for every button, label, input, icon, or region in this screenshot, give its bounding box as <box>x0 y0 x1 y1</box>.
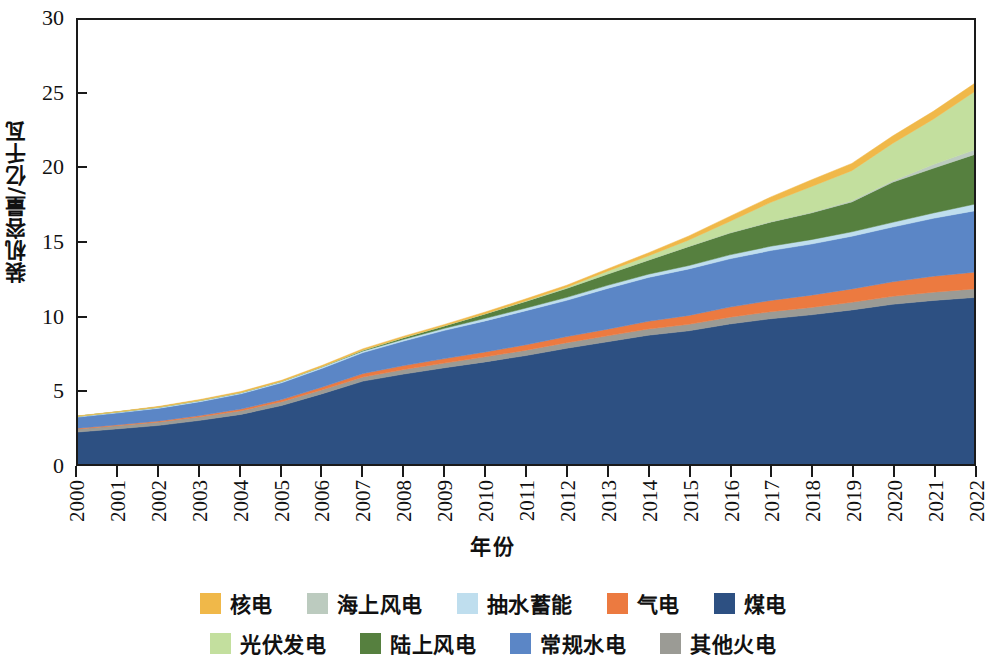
y-tick-mark <box>76 92 87 94</box>
x-tick-mark <box>648 466 650 477</box>
x-axis-title: 年份 <box>0 530 986 560</box>
x-tick-mark <box>852 466 854 477</box>
x-tick-label: 2002 <box>147 480 172 522</box>
x-tick-label: 2005 <box>270 480 295 522</box>
plot-area <box>76 18 976 466</box>
legend-item-核电[interactable]: 核电 <box>200 588 273 618</box>
legend-label: 光伏发电 <box>240 628 326 658</box>
y-tick-mark <box>76 390 87 392</box>
legend-label: 核电 <box>230 588 273 618</box>
y-tick-label: 10 <box>20 304 64 330</box>
x-tick-mark <box>811 466 813 477</box>
legend-row-2: 光伏发电陆上风电常规水电其他火电 <box>0 626 986 660</box>
x-tick-mark <box>689 466 691 477</box>
x-tick-label: 2021 <box>924 480 949 522</box>
x-tick-mark <box>239 466 241 477</box>
x-tick-mark <box>607 466 609 477</box>
y-axis-tick-labels: 051015202530 <box>12 0 64 669</box>
x-tick-label: 2001 <box>106 480 131 522</box>
x-tick-label: 2004 <box>229 480 254 522</box>
x-tick-label: 2008 <box>392 480 417 522</box>
x-tick-mark <box>975 466 977 477</box>
legend-item-煤电[interactable]: 煤电 <box>714 588 787 618</box>
x-tick-label: 2009 <box>433 480 458 522</box>
y-tick-label: 15 <box>20 229 64 255</box>
legend-swatch-icon <box>210 633 231 654</box>
x-tick-mark <box>525 466 527 477</box>
x-tick-label: 2022 <box>965 480 986 522</box>
chart-legend: 核电海上风电抽水蓄能气电煤电 光伏发电陆上风电常规水电其他火电 <box>0 586 986 666</box>
legend-swatch-icon <box>200 593 221 614</box>
legend-item-海上风电[interactable]: 海上风电 <box>307 588 423 618</box>
legend-label: 陆上风电 <box>390 628 476 658</box>
x-tick-label: 2020 <box>883 480 908 522</box>
y-tick-label: 25 <box>20 80 64 106</box>
x-tick-mark <box>934 466 936 477</box>
x-tick-label: 2018 <box>801 480 826 522</box>
legend-label: 气电 <box>637 588 680 618</box>
x-tick-mark <box>157 466 159 477</box>
x-tick-label: 2000 <box>65 480 90 522</box>
legend-swatch-icon <box>510 633 531 654</box>
legend-swatch-icon <box>660 633 681 654</box>
legend-label: 海上风电 <box>337 588 423 618</box>
x-tick-label: 2012 <box>556 480 581 522</box>
x-tick-label: 2003 <box>188 480 213 522</box>
x-tick-mark <box>484 466 486 477</box>
x-tick-mark <box>893 466 895 477</box>
legend-swatch-icon <box>457 593 478 614</box>
x-tick-mark <box>320 466 322 477</box>
x-tick-label: 2006 <box>310 480 335 522</box>
legend-label: 常规水电 <box>540 628 626 658</box>
x-tick-label: 2010 <box>474 480 499 522</box>
x-tick-label: 2007 <box>351 480 376 522</box>
legend-label: 其他火电 <box>690 628 776 658</box>
x-tick-label: 2019 <box>842 480 867 522</box>
x-tick-label: 2017 <box>760 480 785 522</box>
legend-item-气电[interactable]: 气电 <box>607 588 680 618</box>
y-tick-label: 30 <box>20 5 64 31</box>
x-tick-mark <box>116 466 118 477</box>
legend-item-光伏发电[interactable]: 光伏发电 <box>210 628 326 658</box>
area-series-svg <box>78 20 974 464</box>
x-tick-label: 2016 <box>720 480 745 522</box>
x-tick-mark <box>75 466 77 477</box>
x-tick-mark <box>280 466 282 477</box>
x-tick-mark <box>198 466 200 477</box>
legend-item-常规水电[interactable]: 常规水电 <box>510 628 626 658</box>
legend-item-抽水蓄能[interactable]: 抽水蓄能 <box>457 588 573 618</box>
x-tick-mark <box>730 466 732 477</box>
x-tick-label: 2014 <box>638 480 663 522</box>
legend-swatch-icon <box>360 633 381 654</box>
legend-swatch-icon <box>714 593 735 614</box>
x-tick-mark <box>443 466 445 477</box>
y-tick-label: 0 <box>20 453 64 479</box>
y-tick-mark <box>76 166 87 168</box>
legend-item-其他火电[interactable]: 其他火电 <box>660 628 776 658</box>
legend-item-陆上风电[interactable]: 陆上风电 <box>360 628 476 658</box>
legend-swatch-icon <box>307 593 328 614</box>
x-tick-label: 2015 <box>679 480 704 522</box>
y-tick-mark <box>76 241 87 243</box>
x-tick-mark <box>566 466 568 477</box>
y-tick-mark <box>76 316 87 318</box>
x-tick-label: 2011 <box>515 480 540 521</box>
legend-row-1: 核电海上风电抽水蓄能气电煤电 <box>0 586 986 620</box>
y-tick-label: 20 <box>20 154 64 180</box>
legend-swatch-icon <box>607 593 628 614</box>
x-tick-mark <box>770 466 772 477</box>
stacked-area-chart: 装机容量/亿千瓦 051015202530 200020012002200320… <box>0 0 986 669</box>
legend-label: 煤电 <box>744 588 787 618</box>
x-tick-label: 2013 <box>597 480 622 522</box>
x-tick-mark <box>402 466 404 477</box>
y-tick-label: 5 <box>20 378 64 404</box>
x-tick-mark <box>361 466 363 477</box>
legend-label: 抽水蓄能 <box>487 588 573 618</box>
